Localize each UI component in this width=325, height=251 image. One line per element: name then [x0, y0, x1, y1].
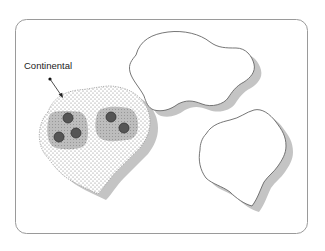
- node-icon: [54, 132, 64, 142]
- cluster-left: [47, 111, 88, 149]
- node-icon: [63, 113, 73, 123]
- node-icon: [106, 112, 116, 122]
- cluster-right: [95, 107, 138, 141]
- diagram-canvas: Continental: [0, 0, 325, 251]
- node-icon: [71, 128, 81, 138]
- continental-label: Continental: [24, 60, 72, 71]
- cluster-right-shape: [95, 107, 138, 141]
- node-icon: [119, 123, 129, 133]
